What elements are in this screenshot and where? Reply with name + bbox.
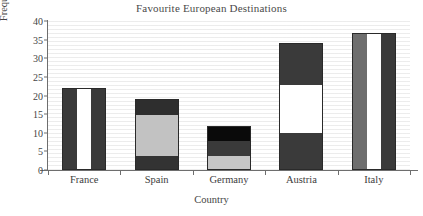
bar-france[interactable]	[62, 88, 106, 170]
plot-area: 0510152025303540	[48, 21, 410, 170]
y-tick-mark	[44, 114, 48, 115]
bar-spain[interactable]	[135, 99, 179, 170]
bar-segment	[208, 141, 250, 156]
bar-segment	[280, 85, 322, 133]
bar-italy[interactable]	[352, 33, 396, 170]
x-tick-label-germany: Germany	[209, 174, 248, 185]
x-tick-mark	[48, 170, 49, 175]
bar-segment	[136, 115, 178, 156]
y-tick-mark	[44, 21, 48, 22]
x-tick-mark	[120, 170, 121, 175]
bar-stripe	[77, 89, 91, 169]
bar-chart: Favourite European Destinations Frequenc…	[0, 0, 423, 216]
x-tick-label-austria: Austria	[286, 174, 317, 185]
bar-stripe	[91, 89, 105, 169]
y-tick-mark	[44, 151, 48, 152]
bar-segment	[280, 133, 322, 170]
x-tick-label-france: France	[70, 174, 99, 185]
chart-title: Favourite European Destinations	[0, 2, 423, 14]
bar-stripe	[353, 34, 367, 169]
y-tick-mark	[44, 39, 48, 40]
bar-segment	[208, 127, 250, 141]
x-axis-label: Country	[0, 194, 423, 205]
x-tick-mark	[410, 170, 411, 175]
bar-segment	[136, 100, 178, 115]
bar-stripe	[367, 34, 381, 169]
x-tick-mark	[193, 170, 194, 175]
x-tick-label-italy: Italy	[364, 174, 383, 185]
bar-germany[interactable]	[207, 126, 251, 170]
y-tick-mark	[44, 58, 48, 59]
y-tick-mark	[44, 76, 48, 77]
bar-stripe	[63, 89, 77, 169]
x-tick-label-spain: Spain	[145, 174, 169, 185]
bar-segment	[136, 156, 178, 170]
bar-austria[interactable]	[279, 43, 323, 170]
y-tick-mark	[44, 95, 48, 96]
x-tick-mark	[338, 170, 339, 175]
y-tick-mark	[44, 132, 48, 133]
x-axis-line	[40, 170, 418, 171]
bar-stripe	[381, 34, 395, 169]
bar-segment	[280, 44, 322, 84]
y-axis-label: Frequency	[0, 0, 9, 54]
bar-segment	[208, 156, 250, 170]
x-tick-mark	[265, 170, 266, 175]
